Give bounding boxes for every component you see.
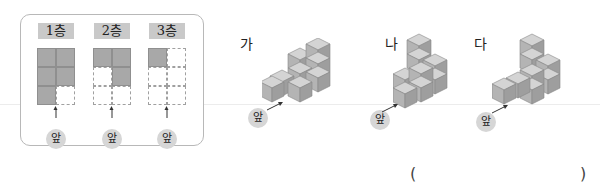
floor-label: 1층 [38,23,74,39]
front-arrow-icon [265,100,285,112]
floor-grid [93,48,131,105]
front-badge: 앞 [102,129,122,149]
cube-figure-ga [262,38,342,108]
front-arrow-icon [167,109,168,118]
front-arrow-icon [56,109,57,118]
option-label-da: 다 [474,33,487,53]
front-arrow-icon [380,102,400,114]
front-arrow-icon [490,103,510,115]
floor-grid [148,48,186,105]
floor-plan-3: 3층 앞 [145,23,189,119]
front-badge: 앞 [46,129,66,149]
answer-close-paren: ) [580,164,586,183]
floor-grid [37,48,75,105]
floor-plan-1: 1층 앞 [34,23,78,119]
front-badge: 앞 [476,112,496,132]
cube-figure-na [393,30,463,110]
cube-figure-da [492,30,572,110]
floor-plan-2: 2층 앞 [90,23,134,119]
option-label-ga: 가 [240,33,253,53]
floor-label: 3층 [149,23,185,39]
answer-open-paren: ( [410,164,416,183]
floor-plan-panel: 1층 앞 2층 앞 3층 앞 [20,14,204,146]
answer-blank[interactable] [420,164,580,184]
front-arrow-icon [112,109,113,118]
front-badge: 앞 [157,129,177,149]
floor-label: 2층 [94,23,130,39]
